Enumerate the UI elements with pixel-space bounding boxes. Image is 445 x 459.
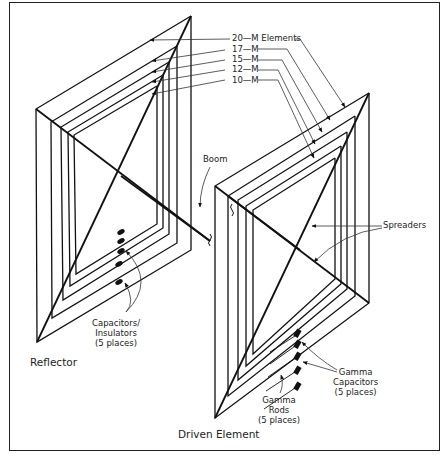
label-gamma-capacitors: Gamma Capacitors (5 places) xyxy=(333,367,378,397)
label-reflector: Reflector xyxy=(30,357,77,368)
label-20m-elements: 20—M Elements xyxy=(232,34,301,43)
label-driven-element: Driven Element xyxy=(178,429,259,440)
reflector-element xyxy=(36,16,210,342)
label-boom: Boom xyxy=(203,155,228,164)
label-gamma-rods: Gamma Rods (5 places) xyxy=(258,395,300,425)
label-17m: 17—M xyxy=(232,45,259,54)
boom xyxy=(121,176,300,250)
label-capacitors-insulators: Capacitors/ Insulators (5 places) xyxy=(92,318,140,348)
label-spreaders: Spreaders xyxy=(383,221,426,230)
gamma-capacitors xyxy=(293,329,301,391)
label-12m: 12—M xyxy=(232,65,259,74)
label-15m: 15—M xyxy=(232,55,259,64)
label-10m: 10—M xyxy=(232,76,259,85)
quad-antenna-diagram xyxy=(0,0,445,459)
